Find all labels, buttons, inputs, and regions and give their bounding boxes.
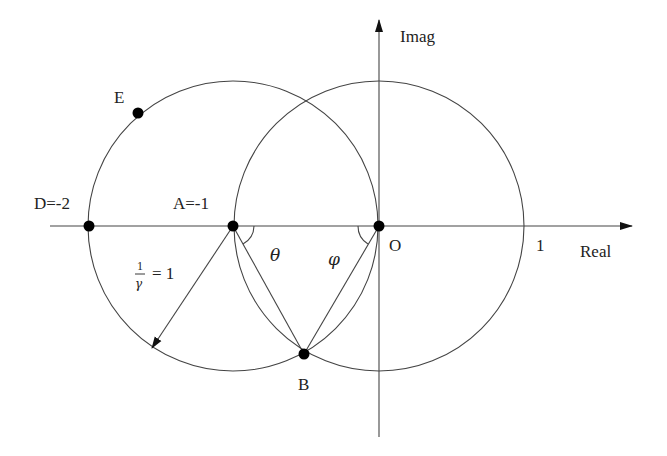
label-E: E: [114, 88, 124, 107]
radius-label-denominator: γ: [135, 277, 143, 291]
point-E: [133, 108, 144, 119]
label-O: O: [389, 236, 401, 255]
tick-label-one: 1: [536, 236, 545, 255]
radius-arrow: [152, 226, 233, 348]
point-O: [374, 221, 385, 232]
label-D: D=-2: [34, 194, 70, 213]
radius-label-rhs: = 1: [152, 264, 174, 283]
point-D: [84, 221, 95, 232]
complex-plane-diagram: Imag Real 1 D=-2 A=-1 O B E θ φ 1 γ = 1: [0, 0, 667, 456]
radius-label: 1 γ = 1: [135, 259, 174, 291]
point-B: [299, 349, 310, 360]
imag-axis-label: Imag: [400, 27, 435, 46]
label-phi: φ: [328, 249, 340, 269]
phi-angle-arc: [358, 226, 368, 244]
label-A: A=-1: [173, 194, 209, 213]
segment-A-B: [233, 226, 304, 354]
real-axis-label: Real: [580, 242, 611, 261]
theta-angle-arc: [243, 226, 254, 244]
point-A: [228, 221, 239, 232]
label-B: B: [298, 375, 309, 394]
radius-label-numerator: 1: [137, 259, 143, 273]
label-theta: θ: [270, 245, 280, 265]
segment-O-B: [304, 226, 379, 354]
